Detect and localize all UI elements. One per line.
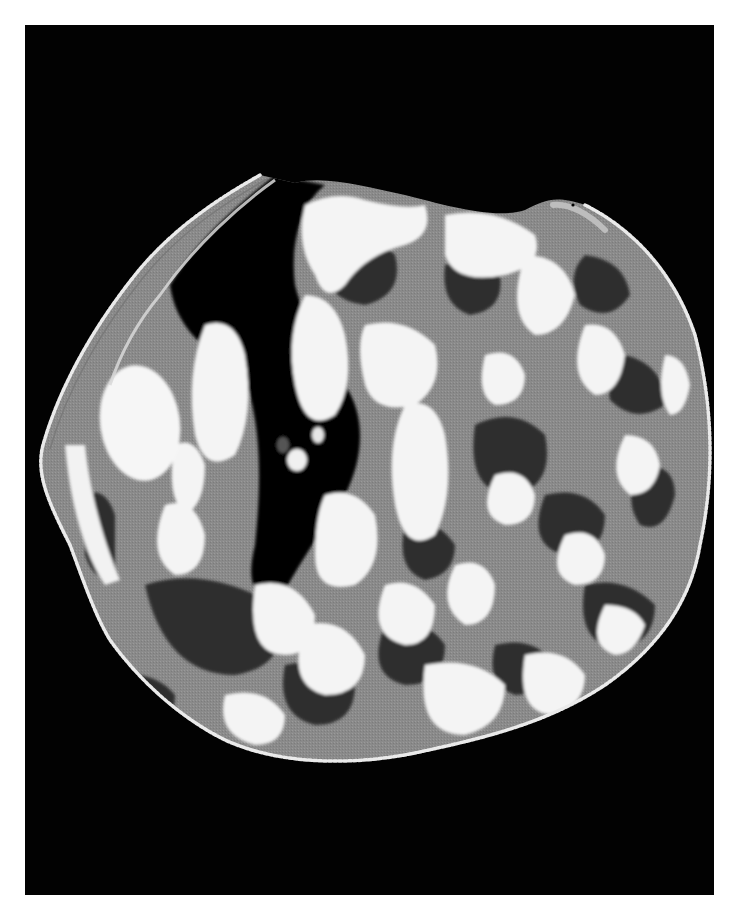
page xyxy=(0,0,740,919)
scan-frame xyxy=(25,25,714,895)
scan-body xyxy=(25,25,714,895)
scan-image xyxy=(25,25,714,895)
